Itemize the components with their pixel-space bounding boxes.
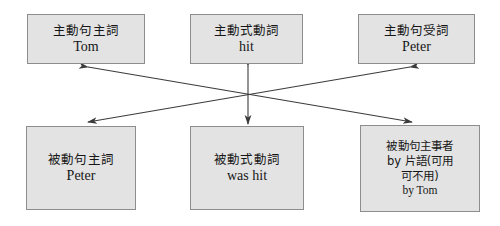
- node-active-verb-line-1: 主動式動詞: [214, 23, 280, 38]
- node-passive-agent: 被動句主事者 by 片語(可用 可不用) by Tom: [360, 125, 480, 212]
- connector-subject-to-agent: [88, 67, 412, 122]
- node-passive-subject-line-1: 被動句主詞: [48, 152, 114, 167]
- node-active-object-line-2: Peter: [402, 38, 431, 55]
- node-active-object: 主動句受詞 Peter: [358, 14, 475, 64]
- node-passive-subject-line-2: Peter: [67, 167, 96, 184]
- node-passive-agent-line-3: 可不用): [401, 169, 439, 184]
- diagram-canvas: 主動句主詞 Tom 主動式動詞 hit 主動句受詞 Peter 被動句主詞 Pe…: [0, 0, 500, 226]
- node-passive-verb: 被動式動詞 was hit: [190, 126, 304, 210]
- connector-object-to-subject: [88, 67, 410, 122]
- node-active-subject-line-1: 主動句主詞: [53, 23, 119, 38]
- node-active-verb: 主動式動詞 hit: [190, 14, 303, 64]
- node-active-subject-line-2: Tom: [73, 38, 98, 55]
- node-active-verb-line-2: hit: [239, 38, 254, 55]
- node-passive-verb-line-2: was hit: [227, 167, 267, 184]
- node-passive-agent-line-2: by 片語(可用: [387, 154, 453, 169]
- node-active-subject: 主動句主詞 Tom: [27, 14, 145, 64]
- node-passive-subject: 被動句主詞 Peter: [26, 126, 136, 210]
- node-passive-agent-line-4: by Tom: [402, 183, 437, 198]
- node-passive-agent-line-1: 被動句主事者: [386, 139, 453, 154]
- node-passive-verb-line-1: 被動式動詞: [214, 152, 280, 167]
- node-active-object-line-1: 主動句受詞: [384, 23, 450, 38]
